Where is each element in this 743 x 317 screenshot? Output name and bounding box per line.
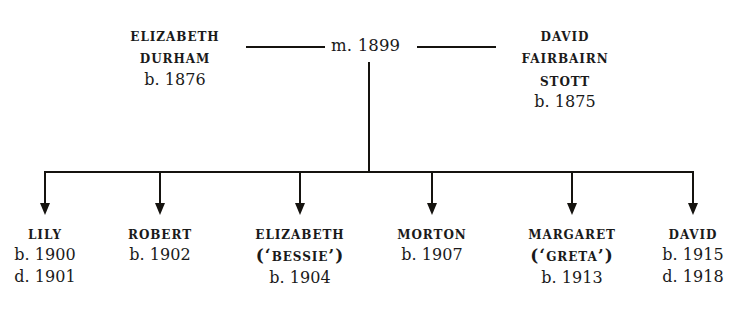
child-arrow-stem-margaret-greta	[571, 171, 573, 205]
parent-name-line-2: Fairbairn	[495, 46, 635, 68]
child-node-morton: Morton b. 1907	[372, 222, 492, 266]
child-arrow-head-morton	[427, 203, 437, 215]
child-node-margaret-greta: Margaret (‘Greta’) b. 1913	[502, 222, 642, 288]
child-birth-year: b. 1902	[100, 244, 220, 265]
child-name: Robert	[100, 222, 220, 244]
child-node-david: David b. 1915 d. 1918	[638, 222, 743, 287]
child-arrow-stem-elizabeth-bessie	[299, 171, 301, 205]
child-arrow-head-elizabeth-bessie	[295, 203, 305, 215]
parent-node-david-fairbairn-stott: David Fairbairn Stott b. 1875	[495, 24, 635, 112]
parent-birth-year: b. 1875	[495, 91, 635, 112]
child-birth-year: b. 1904	[230, 267, 370, 288]
child-node-robert: Robert b. 1902	[100, 222, 220, 266]
parent-birth-year: b. 1876	[110, 69, 240, 90]
child-birth-year: b. 1907	[372, 244, 492, 265]
child-name: Elizabeth	[230, 222, 370, 244]
child-death-year: d. 1918	[638, 266, 743, 287]
child-birth-year: b. 1915	[638, 244, 743, 265]
child-name: David	[638, 222, 743, 244]
marriage-rule-left	[246, 46, 325, 48]
parent-name-line-3: Stott	[495, 69, 635, 91]
child-death-year: d. 1901	[0, 266, 100, 287]
sibling-bar	[44, 171, 694, 173]
child-name: Morton	[372, 222, 492, 244]
parent-name-line-1: Elizabeth	[110, 24, 240, 46]
parent-node-elizabeth-durham: Elizabeth Durham b. 1876	[110, 24, 240, 90]
child-name: Lily	[0, 222, 100, 244]
parent-name-line-2: Durham	[110, 46, 240, 68]
child-arrow-head-margaret-greta	[567, 203, 577, 215]
child-nickname: (‘Greta’)	[502, 244, 642, 266]
marriage-rule-right	[417, 46, 496, 48]
descent-line	[368, 62, 370, 173]
child-arrow-head-lily	[40, 203, 50, 215]
parent-name-line-1: David	[495, 24, 635, 46]
family-tree-diagram: Elizabeth Durham b. 1876 David Fairbairn…	[0, 0, 743, 317]
child-nickname: (‘Bessie’)	[230, 244, 370, 266]
child-node-lily: Lily b. 1900 d. 1901	[0, 222, 100, 287]
child-birth-year: b. 1913	[502, 267, 642, 288]
child-arrow-stem-david	[692, 171, 694, 205]
child-arrow-stem-robert	[159, 171, 161, 205]
child-arrow-stem-lily	[44, 171, 46, 205]
child-arrow-stem-morton	[431, 171, 433, 205]
child-birth-year: b. 1900	[0, 244, 100, 265]
child-arrow-head-david	[688, 203, 698, 215]
child-name: Margaret	[502, 222, 642, 244]
child-arrow-head-robert	[155, 203, 165, 215]
child-node-elizabeth-bessie: Elizabeth (‘Bessie’) b. 1904	[230, 222, 370, 288]
marriage-label: m. 1899	[331, 36, 400, 55]
